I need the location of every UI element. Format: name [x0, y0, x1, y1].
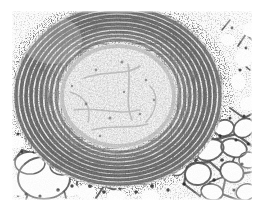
scan-grain-overlay	[12, 11, 252, 200]
specimen-plate	[0, 0, 260, 213]
left-margin	[0, 0, 12, 213]
micrograph-figure: Grayscale histological micrograph of lun…	[0, 0, 260, 213]
histology-micrograph-image: Grayscale histological micrograph of lun…	[0, 0, 260, 213]
right-margin	[252, 11, 260, 213]
caption-zone	[0, 206, 260, 213]
